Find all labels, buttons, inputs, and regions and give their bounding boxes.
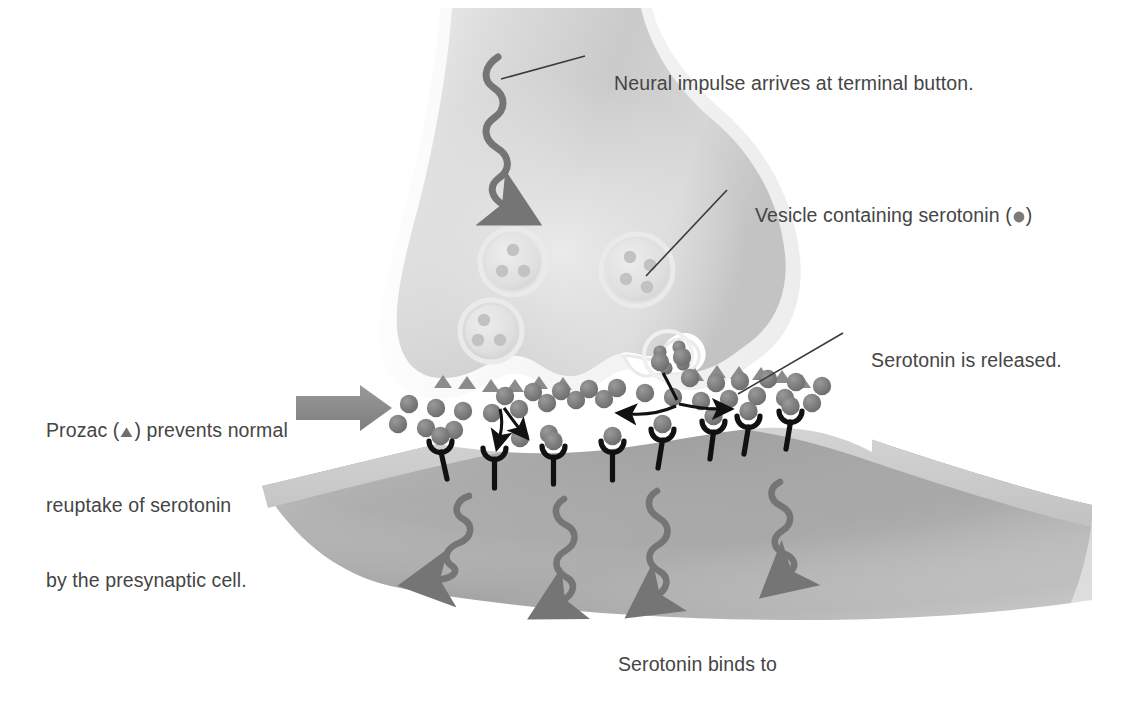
label-serotonin-binds: Serotonin binds to receptor () and trigg… (618, 602, 836, 706)
serotonin-dot (400, 395, 418, 413)
serotonin-dot (707, 374, 725, 392)
prozac-triangle-icon (119, 425, 134, 439)
vesicle (460, 300, 522, 362)
serotonin-dot (483, 404, 501, 422)
label-prozac-prefix: Prozac ( (46, 419, 119, 441)
serotonin-dot (389, 415, 407, 433)
serotonin-dot (552, 382, 570, 400)
label-serotonin-released-text: Serotonin is released. (871, 349, 1062, 371)
serotonin-dot (651, 353, 669, 371)
label-binds-line1: Serotonin binds to (618, 652, 836, 677)
label-vesicle: Vesicle containing serotonin () (733, 178, 1032, 253)
serotonin-dot (496, 387, 514, 405)
vesicle (601, 234, 673, 306)
serotonin-dot (511, 429, 529, 447)
serotonin-dot (427, 399, 445, 417)
serotonin-dot (731, 372, 749, 390)
label-neural-impulse-text: Neural impulse arrives at terminal butto… (614, 72, 974, 94)
vesicle (480, 229, 546, 295)
serotonin-dot (454, 402, 472, 420)
serotonin-dot-icon (1012, 210, 1026, 224)
serotonin-dot (636, 384, 654, 402)
label-neural-impulse: Neural impulse arrives at terminal butto… (592, 46, 974, 121)
label-vesicle-prefix: Vesicle containing serotonin ( (755, 204, 1012, 226)
label-prozac: Prozac () prevents normal reuptake of se… (46, 368, 288, 643)
label-prozac-line1: Prozac () prevents normal (46, 418, 288, 443)
serotonin-dot (681, 369, 699, 387)
serotonin-dot (608, 379, 626, 397)
serotonin-dot (787, 373, 805, 391)
diffusion-arrow-down (500, 409, 502, 436)
serotonin-dot (673, 348, 691, 366)
serotonin-dot (580, 380, 598, 398)
figure-canvas: Neural impulse arrives at terminal butto… (0, 0, 1142, 706)
serotonin-dot (524, 383, 542, 401)
serotonin-dot (813, 377, 831, 395)
label-prozac-line2: reuptake of serotonin (46, 493, 288, 518)
serotonin-dot (510, 400, 528, 418)
label-prozac-line3: by the presynaptic cell. (46, 568, 288, 593)
serotonin-dot (803, 394, 821, 412)
label-prozac-suffix: ) prevents normal (134, 419, 287, 441)
label-vesicle-suffix: ) (1026, 204, 1033, 226)
label-serotonin-released: Serotonin is released. (849, 323, 1062, 398)
serotonin-dot (720, 390, 738, 408)
